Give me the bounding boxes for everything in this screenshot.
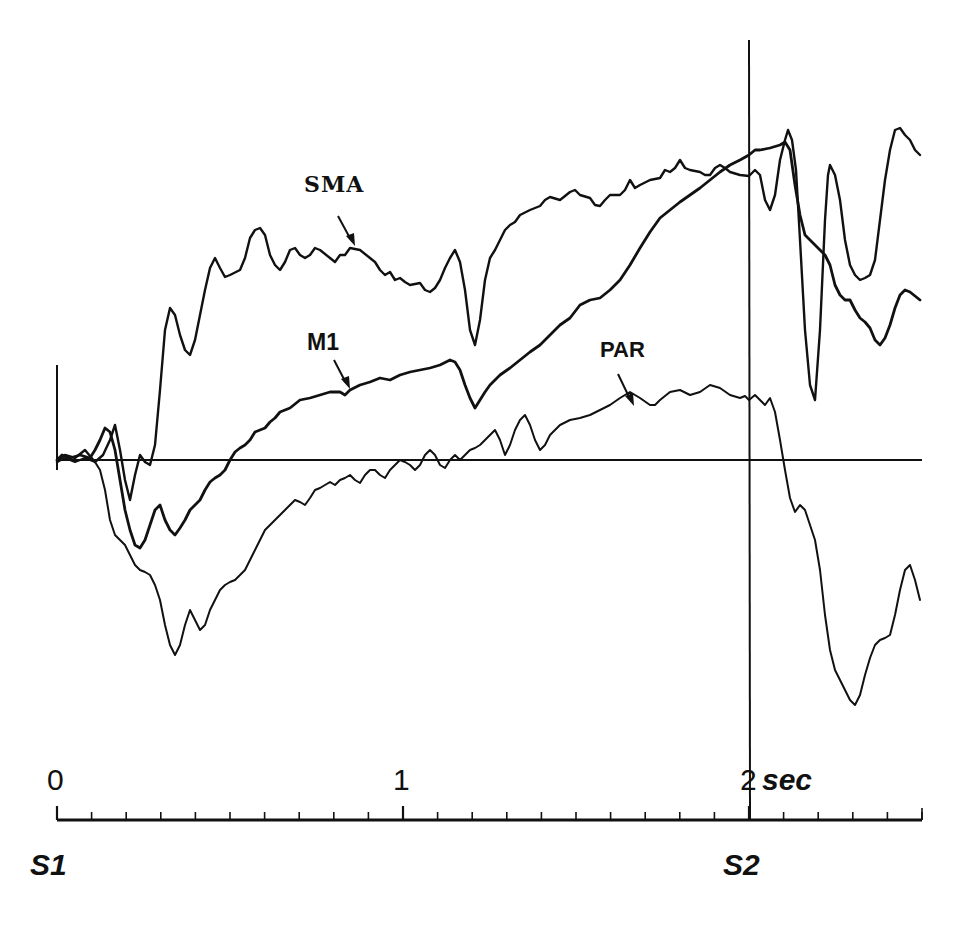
s1-event-label: S1 (30, 848, 67, 881)
par-trace (57, 385, 920, 705)
s2-event-label: S2 (723, 848, 760, 881)
time-unit-label: sec (762, 763, 812, 796)
time-axis-ticks (57, 806, 922, 820)
time-axis: 0 1 2 sec S1 S2 (30, 763, 922, 881)
m1-trace (57, 142, 920, 548)
waveform-chart: SMA M1 PAR 0 1 2 sec S1 S2 (0, 0, 969, 927)
tick-label-1: 1 (393, 763, 410, 796)
par-arrow (618, 374, 634, 406)
par-label: PAR (600, 337, 645, 362)
tick-label-0: 0 (47, 763, 64, 796)
s2-reference-line (749, 40, 750, 820)
sma-trace (57, 128, 920, 500)
chart-svg: SMA M1 PAR 0 1 2 sec S1 S2 (0, 0, 969, 927)
m1-label: M1 (307, 329, 339, 355)
sma-arrow (338, 216, 355, 246)
tick-label-2: 2 (740, 763, 757, 796)
m1-arrow (334, 360, 350, 389)
sma-label: SMA (304, 171, 364, 197)
